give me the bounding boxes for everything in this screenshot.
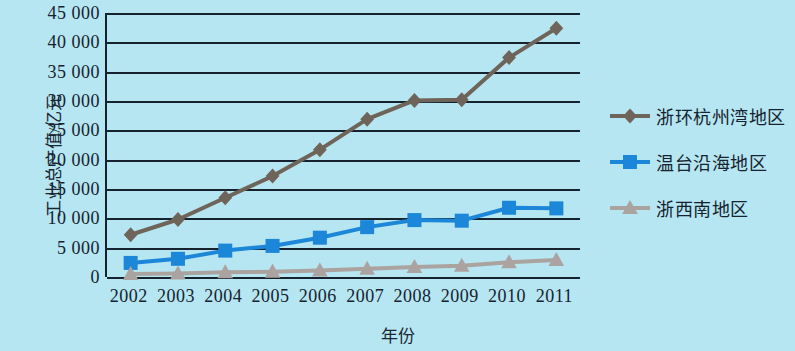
data-point-marker — [218, 244, 232, 258]
data-point-marker — [360, 220, 374, 234]
x-tick-label: 2009 — [441, 286, 479, 307]
y-tick-label: 25 000 — [48, 120, 101, 141]
x-tick-label: 2004 — [204, 286, 242, 307]
data-point-marker — [549, 201, 563, 215]
x-tick-label: 2011 — [536, 286, 573, 307]
data-point-marker — [266, 239, 280, 253]
y-tick-label: 10 000 — [48, 208, 101, 229]
data-point-marker — [502, 201, 516, 215]
legend-label: 浙环杭州湾地区 — [656, 103, 786, 129]
legend-label: 温台沿海地区 — [656, 149, 767, 175]
data-point-marker — [623, 155, 637, 169]
y-tick-label: 20 000 — [48, 149, 101, 170]
series-lines — [107, 13, 580, 277]
x-tick-label: 2007 — [346, 286, 384, 307]
data-point-marker — [408, 93, 422, 108]
data-point-marker — [266, 169, 280, 184]
data-point-marker — [171, 252, 185, 266]
chart-figure: 工业总产值/亿元 05 00010 00015 00020 00025 0003… — [0, 0, 795, 351]
y-tick-label: 40 000 — [48, 32, 101, 53]
data-point-marker — [171, 212, 185, 227]
data-point-marker — [218, 190, 232, 205]
data-point-marker — [623, 109, 637, 124]
data-point-marker — [124, 227, 138, 242]
data-point-marker — [455, 214, 469, 228]
series-2 — [124, 201, 564, 270]
data-point-marker — [313, 231, 327, 245]
legend-marker-diamond-icon — [608, 106, 652, 126]
legend-item-2[interactable]: 温台沿海地区 — [608, 152, 793, 172]
y-tick-label: 0 — [91, 267, 101, 288]
legend-label: 浙西南地区 — [656, 195, 749, 221]
data-point-marker — [407, 213, 421, 227]
x-tick-label: 2008 — [393, 286, 431, 307]
x-tick-label: 2005 — [252, 286, 290, 307]
x-tick-label: 2010 — [488, 286, 526, 307]
series-line — [131, 28, 557, 235]
x-tick-label: 2003 — [157, 286, 195, 307]
x-axis-tick-labels: 2002200320042005200620072008200920102011 — [105, 286, 578, 312]
series-line — [131, 260, 557, 274]
y-axis-tick-labels: 05 00010 00015 00020 00025 00030 00035 0… — [28, 0, 100, 300]
y-tick-label: 35 000 — [48, 61, 101, 82]
legend-item-3[interactable]: 浙西南地区 — [608, 198, 793, 218]
legend-marker-square-icon — [608, 152, 652, 172]
legend-marker-triangle-icon — [608, 198, 652, 218]
y-tick-label: 5 000 — [57, 237, 100, 258]
legend-item-1[interactable]: 浙环杭州湾地区 — [608, 106, 793, 126]
legend: 浙环杭州湾地区温台沿海地区浙西南地区 — [608, 106, 793, 244]
x-tick-label: 2002 — [110, 286, 148, 307]
y-tick-label: 45 000 — [48, 3, 101, 24]
plot-area — [105, 13, 578, 277]
x-tick-label: 2006 — [299, 286, 337, 307]
x-axis-title: 年份 — [0, 322, 795, 347]
y-tick-label: 30 000 — [48, 91, 101, 112]
series-line — [131, 208, 557, 263]
y-tick-label: 15 000 — [48, 179, 101, 200]
